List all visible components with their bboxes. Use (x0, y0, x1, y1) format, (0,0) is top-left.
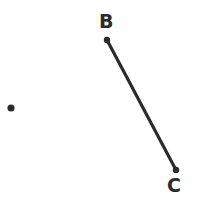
point-c-marker (173, 167, 179, 173)
point-c-label: C (167, 176, 180, 195)
point-unlabeled-marker (7, 104, 14, 111)
geometry-figure: B C (0, 0, 200, 206)
point-b-marker (104, 37, 110, 43)
point-b-label: B (99, 12, 113, 31)
